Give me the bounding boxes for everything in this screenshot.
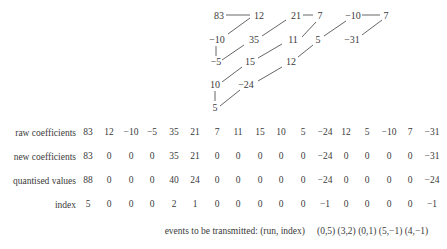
- coefficient-node: 35: [249, 35, 259, 45]
- table-cell: 21: [190, 128, 200, 138]
- table-cell: −1: [320, 200, 330, 210]
- coefficient-node: 12: [286, 57, 296, 67]
- table-cell: 0: [387, 152, 392, 162]
- scan-path-segment: [258, 44, 282, 58]
- table-cell: −31: [425, 128, 440, 138]
- row-label: new coefficients: [14, 152, 76, 162]
- table-cell: 7: [215, 128, 220, 138]
- table-cell: 0: [236, 176, 241, 186]
- table-cell: 5: [301, 128, 306, 138]
- table-cell: 0: [387, 200, 392, 210]
- table-cell: 35: [169, 152, 179, 162]
- table-cell: 0: [150, 200, 155, 210]
- table-cell: 11: [233, 128, 242, 138]
- table-cell: 0: [258, 200, 263, 210]
- table-cell: −1: [427, 200, 437, 210]
- table-cell: 0: [344, 152, 349, 162]
- coefficient-node: 7: [384, 11, 389, 21]
- events-values: (0,5) (3,2) (0,1) (5,−1) (4,−1): [317, 226, 428, 236]
- table-cell: 88: [83, 176, 93, 186]
- table-cell: 1: [193, 200, 198, 210]
- table-cell: 0: [408, 152, 413, 162]
- table-cell: 35: [169, 128, 179, 138]
- table-cell: 0: [150, 176, 155, 186]
- table-cell: 0: [365, 200, 370, 210]
- events-label: events to be transmitted: (run, index): [165, 226, 305, 236]
- table-cell: 0: [301, 176, 306, 186]
- table-cell: 0: [279, 176, 284, 186]
- coefficient-node: 12: [254, 11, 264, 21]
- table-cell: −24: [318, 152, 333, 162]
- scan-path-segment: [220, 90, 240, 106]
- table-cell: 0: [344, 200, 349, 210]
- scan-path-segment: [362, 20, 382, 35]
- coefficient-node: 15: [245, 57, 255, 67]
- table-cell: 0: [279, 152, 284, 162]
- table-cell: 0: [408, 176, 413, 186]
- coefficient-node: 5: [316, 35, 321, 45]
- scan-path-segment: [258, 67, 282, 81]
- row-label: index: [55, 200, 76, 210]
- table-cell: 83: [83, 152, 93, 162]
- coefficient-node: 11: [288, 35, 298, 45]
- table-cell: 0: [258, 152, 263, 162]
- row-label: quantised values: [13, 176, 76, 186]
- table-cell: 12: [104, 128, 114, 138]
- coefficient-node: −5: [211, 57, 222, 67]
- table-cell: 0: [344, 176, 349, 186]
- scan-path-segment: [298, 45, 313, 57]
- table-cell: 12: [341, 128, 351, 138]
- table-cell: 83: [83, 128, 93, 138]
- table-cell: −10: [382, 128, 397, 138]
- scan-path-segment: [302, 22, 316, 37]
- table-cell: 0: [301, 152, 306, 162]
- coefficient-node: −10: [345, 11, 361, 21]
- table-cell: −10: [124, 128, 139, 138]
- table-cell: −24: [318, 176, 333, 186]
- table-cell: 0: [129, 200, 134, 210]
- table-cell: 0: [107, 152, 112, 162]
- table-cell: −5: [147, 128, 157, 138]
- scan-path-segment: [262, 20, 286, 36]
- coefficient-node: 5: [213, 103, 218, 113]
- table-cell: 0: [107, 176, 112, 186]
- coefficient-node: 7: [318, 11, 323, 21]
- table-cell: 7: [408, 128, 413, 138]
- table-cell: 0: [258, 176, 263, 186]
- table-cell: 21: [190, 152, 200, 162]
- table-cell: 0: [215, 176, 220, 186]
- table-cell: 0: [408, 200, 413, 210]
- table-cell: 5: [365, 128, 370, 138]
- scan-path-segment: [324, 21, 346, 36]
- table-cell: 0: [301, 200, 306, 210]
- coefficient-node: −10: [209, 35, 225, 45]
- table-cell: 40: [169, 176, 179, 186]
- table-cell: 0: [236, 152, 241, 162]
- table-cell: 0: [129, 176, 134, 186]
- scan-path-segment: [222, 45, 244, 60]
- table-cell: −31: [425, 152, 440, 162]
- table-cell: 0: [129, 152, 134, 162]
- table-cell: −24: [425, 176, 440, 186]
- table-cell: 5: [86, 200, 91, 210]
- table-cell: 0: [365, 176, 370, 186]
- table-cell: 2: [172, 200, 177, 210]
- table-cell: 0: [387, 176, 392, 186]
- scan-path-segment: [228, 18, 250, 34]
- table-cell: 0: [279, 200, 284, 210]
- table-cell: 0: [107, 200, 112, 210]
- coefficient-node: 83: [214, 11, 224, 21]
- table-cell: 0: [215, 152, 220, 162]
- table-cell: 0: [150, 152, 155, 162]
- row-label: raw coefficients: [15, 128, 76, 138]
- table-cell: 10: [276, 128, 286, 138]
- coefficient-node: −31: [344, 35, 360, 45]
- coefficient-node: −24: [238, 80, 254, 90]
- table-cell: 0: [215, 200, 220, 210]
- table-cell: 24: [190, 176, 200, 186]
- table-cell: 0: [365, 152, 370, 162]
- coefficient-node: 10: [210, 80, 220, 90]
- coefficient-node: 21: [291, 11, 301, 21]
- table-cell: −24: [318, 128, 333, 138]
- table-cell: 0: [236, 200, 241, 210]
